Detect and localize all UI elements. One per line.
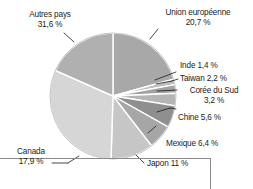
label-canada: Canada 17,9 %	[7, 147, 55, 166]
label-chine: Chine 5,6 %	[178, 113, 221, 123]
label-autres-pays-name: Autres pays	[29, 10, 71, 19]
label-canada-name: Canada	[17, 147, 45, 156]
pie-slices	[50, 33, 176, 159]
label-coree-du-sud: Corée du Sud 3,2 %	[176, 86, 252, 105]
label-japon: Japon 11 %	[147, 159, 188, 169]
label-union-europeenne: Union européenne 20,7 %	[150, 8, 246, 27]
label-mexique: Mexique 6,4 %	[166, 139, 218, 149]
leader-line-autres-pays	[64, 33, 74, 42]
label-union-europeenne-name: Union européenne	[166, 8, 231, 17]
label-taiwan: Taiwan 2,2 %	[180, 74, 227, 84]
label-union-europeenne-value: 20,7 %	[150, 18, 246, 28]
label-coree-du-sud-name: Corée du Sud	[190, 86, 239, 95]
leader-line-union-europeenne	[150, 29, 158, 39]
label-autres-pays: Autres pays 31,6 %	[12, 10, 88, 29]
label-coree-du-sud-value: 3,2 %	[176, 96, 252, 106]
pie-chart-figure: Autres pays 31,6 % Union européenne 20,7…	[0, 0, 253, 189]
label-inde: Inde 1,4 %	[180, 61, 218, 71]
label-canada-value: 17,9 %	[7, 157, 55, 167]
label-autres-pays-value: 31,6 %	[12, 20, 88, 30]
top-crop-edge	[0, 0, 253, 4]
